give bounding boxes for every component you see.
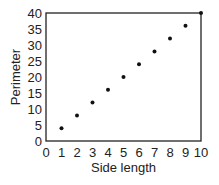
x-tick-label: 5: [120, 145, 127, 160]
data-point: [122, 75, 126, 79]
data-points: [60, 11, 204, 130]
y-tick-label: 25: [28, 54, 42, 69]
x-tick-label: 10: [194, 145, 208, 160]
x-axis-label: Side length: [91, 160, 156, 175]
x-axis-ticks: 012345678910: [42, 145, 208, 160]
y-tick-label: 40: [28, 6, 42, 21]
x-tick-label: 2: [73, 145, 80, 160]
y-tick-label: 0: [35, 134, 42, 149]
y-tick-label: 30: [28, 38, 42, 53]
y-axis-label: Perimeter: [8, 48, 23, 105]
x-tick-label: 9: [182, 145, 189, 160]
x-tick-label: 0: [42, 145, 49, 160]
y-tick-label: 5: [35, 118, 42, 133]
y-tick-label: 20: [28, 70, 42, 85]
data-point: [184, 24, 188, 28]
data-point: [75, 113, 79, 117]
x-tick-label: 4: [104, 145, 111, 160]
x-tick-label: 8: [166, 145, 173, 160]
data-point: [137, 62, 141, 66]
data-point: [60, 126, 64, 130]
data-point: [199, 11, 203, 15]
x-tick-label: 1: [58, 145, 65, 160]
scatter-chart: 0510152025303540 012345678910 Side lengt…: [0, 0, 219, 185]
x-tick-label: 3: [89, 145, 96, 160]
y-tick-label: 35: [28, 22, 42, 37]
x-tick-label: 6: [135, 145, 142, 160]
x-tick-label: 7: [151, 145, 158, 160]
data-point: [91, 101, 95, 105]
data-point: [168, 37, 172, 41]
data-point: [106, 88, 110, 92]
y-tick-label: 15: [28, 86, 42, 101]
y-axis-ticks: 0510152025303540: [28, 6, 42, 149]
data-point: [153, 49, 157, 53]
y-tick-label: 10: [28, 102, 42, 117]
